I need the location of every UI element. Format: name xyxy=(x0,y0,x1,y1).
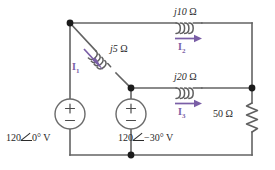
node-top-left xyxy=(67,20,74,27)
inductor-j10 xyxy=(176,23,202,33)
voltage-source-left xyxy=(55,99,85,129)
inductor-j20 xyxy=(176,88,202,98)
label-inductor-j10: j10 Ω xyxy=(174,7,197,17)
node-bottom xyxy=(128,152,135,159)
inductor-j5 xyxy=(88,51,110,74)
label-current-i3: I3 xyxy=(178,107,185,120)
wire-diagonal-upper xyxy=(70,23,96,51)
node-middle xyxy=(128,85,135,92)
circuit-diagram: j10 Ω j5 Ω j20 Ω 50 Ω 1200° V 120−30° V … xyxy=(0,0,275,170)
label-inductor-j20: j20 Ω xyxy=(174,72,197,82)
resistor-50ohm xyxy=(247,103,258,132)
label-inductor-j5: j5 Ω xyxy=(110,44,128,54)
angle-glyph-icon xyxy=(21,132,32,142)
label-current-i1: I1 xyxy=(72,62,79,75)
label-source-left: 1200° V xyxy=(6,132,51,143)
circuit-schematic-svg xyxy=(0,0,275,170)
label-resistor-50ohm: 50 Ω xyxy=(213,109,233,119)
node-right xyxy=(249,85,256,92)
angle-glyph-icon xyxy=(133,132,144,142)
voltage-source-middle xyxy=(116,99,146,129)
label-source-middle: 120−30° V xyxy=(118,132,173,143)
label-current-i2: I2 xyxy=(178,42,185,55)
